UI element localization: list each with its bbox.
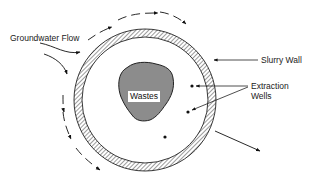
- well-1: [190, 84, 193, 87]
- extraction-wells-label-line1: Extraction: [251, 81, 289, 91]
- wastes-label: Wastes: [128, 91, 160, 102]
- groundwater-flow-label: Groundwater Flow: [10, 33, 79, 43]
- well-2: [186, 110, 189, 113]
- well-3: [163, 135, 166, 138]
- extraction-wells-label-line2: Wells: [251, 91, 272, 101]
- slurry-wall-label: Slurry Wall: [261, 55, 302, 65]
